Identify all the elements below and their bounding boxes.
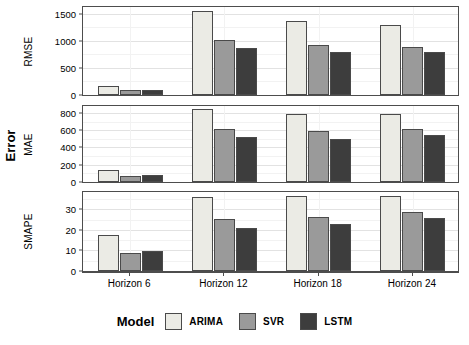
facet-y-axis-label-mae: MAE <box>20 105 36 183</box>
bar <box>192 11 213 95</box>
bar <box>286 196 307 272</box>
x-tick-mark <box>412 273 413 276</box>
bar <box>424 52 445 95</box>
legend-label: LSTM <box>324 316 352 327</box>
bar <box>236 228 257 272</box>
bar <box>402 129 423 182</box>
plot-panel-smape <box>82 191 459 272</box>
x-axis-line <box>82 272 459 273</box>
facet-mae: MAE0200400600800 <box>20 105 459 183</box>
plot-panel-mae <box>82 105 459 183</box>
gridline-major <box>83 41 458 42</box>
bar <box>286 21 307 95</box>
y-tick-label: 0 <box>71 266 76 277</box>
x-tick-mark <box>223 273 224 276</box>
bar <box>142 175 163 182</box>
bar <box>330 139 351 182</box>
legend-item: SVR <box>239 313 284 330</box>
gridline-minor <box>83 199 458 200</box>
y-tick-label: 1000 <box>55 35 76 46</box>
y-tick-label: 200 <box>60 159 76 170</box>
y-tick-label: 30 <box>65 204 76 215</box>
gridline-major <box>83 14 458 15</box>
facet-y-axis-label-text: MAE <box>23 133 34 156</box>
gridline-vertical <box>130 7 131 95</box>
gridline-vertical <box>130 106 131 182</box>
bar <box>308 131 329 182</box>
y-tick-label: 0 <box>71 90 76 101</box>
bar <box>98 235 119 271</box>
legend-items: ARIMASVRLSTM <box>165 313 352 330</box>
facet-y-axis-label-smape: SMAPE <box>20 191 36 272</box>
legend: Model ARIMASVRLSTM <box>0 306 469 336</box>
legend-swatch <box>300 313 317 330</box>
bar <box>192 197 213 271</box>
facet-rmse: RMSE050010001500 <box>20 6 459 96</box>
bar <box>380 196 401 272</box>
bar <box>236 48 257 95</box>
bar <box>330 52 351 95</box>
gridline-major <box>83 113 458 114</box>
bar <box>192 109 213 182</box>
bar <box>142 90 163 95</box>
legend-item: ARIMA <box>165 313 223 330</box>
bar <box>424 135 445 182</box>
y-tick-label: 20 <box>65 224 76 235</box>
y-tick-label: 10 <box>65 245 76 256</box>
bar <box>286 114 307 182</box>
y-tick-label: 1500 <box>55 8 76 19</box>
bar <box>98 170 119 182</box>
grouped-bar-chart: Error RMSE050010001500MAE0200400600800SM… <box>0 0 469 345</box>
x-tick-label: Horizon 18 <box>293 278 341 289</box>
facet-smape: SMAPE0102030 <box>20 191 459 272</box>
bar <box>402 212 423 271</box>
legend-title: Model <box>117 314 155 329</box>
legend-label: SVR <box>263 316 284 327</box>
bar <box>214 129 235 182</box>
bar <box>214 40 235 95</box>
legend-item: LSTM <box>300 313 352 330</box>
gridline-minor <box>83 122 458 123</box>
bar <box>424 218 445 271</box>
legend-label: ARIMA <box>189 316 223 327</box>
bar <box>380 25 401 95</box>
x-tick-label: Horizon 12 <box>199 278 247 289</box>
facet-y-axis-label-rmse: RMSE <box>20 6 36 96</box>
bar <box>330 224 351 271</box>
x-tick-label: Horizon 24 <box>388 278 436 289</box>
bar <box>120 90 141 95</box>
outer-y-axis-label: Error <box>2 0 20 290</box>
facet-y-axis-label-text: RMSE <box>23 36 34 66</box>
y-axis-smape: 0102030 <box>36 191 82 272</box>
bar <box>308 45 329 95</box>
y-tick-label: 600 <box>60 125 76 136</box>
y-axis-rmse: 050010001500 <box>36 6 82 96</box>
bar <box>120 176 141 182</box>
gridline-major <box>83 209 458 210</box>
bar <box>380 114 401 182</box>
x-tick-label: Horizon 6 <box>108 278 151 289</box>
bar <box>402 47 423 95</box>
y-tick-label: 500 <box>60 62 76 73</box>
bar <box>214 219 235 271</box>
y-tick-label: 800 <box>60 107 76 118</box>
y-tick-label: 0 <box>71 177 76 188</box>
bar <box>120 253 141 271</box>
outer-y-axis-label-text: Error <box>4 129 19 161</box>
bar <box>142 251 163 271</box>
bar <box>236 137 257 182</box>
plot-panel-rmse <box>82 6 459 96</box>
bar <box>98 86 119 96</box>
x-tick-mark <box>129 273 130 276</box>
gridline-minor <box>83 27 458 28</box>
legend-swatch <box>239 313 256 330</box>
bar <box>308 217 329 271</box>
legend-swatch <box>165 313 182 330</box>
y-axis-mae: 0200400600800 <box>36 105 82 183</box>
facet-y-axis-label-text: SMAPE <box>23 213 34 250</box>
y-tick-label: 400 <box>60 142 76 153</box>
x-tick-mark <box>318 273 319 276</box>
x-axis: Horizon 6Horizon 12Horizon 18Horizon 24 <box>82 272 459 298</box>
